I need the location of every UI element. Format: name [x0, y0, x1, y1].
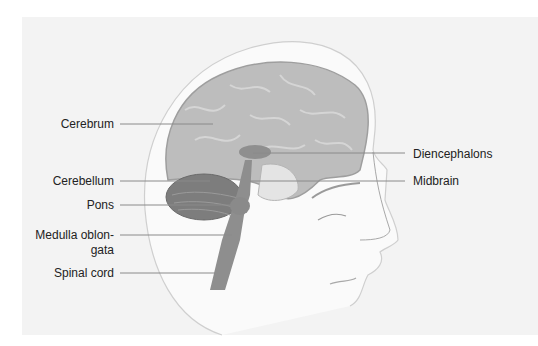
label-midbrain: Midbrain — [413, 174, 459, 188]
label-cerebellum: Cerebellum — [53, 174, 114, 188]
label-pons: Pons — [87, 198, 114, 212]
pons-shape — [230, 197, 250, 215]
label-spinal-cord: Spinal cord — [54, 266, 114, 280]
label-medulla-line1: Medulla oblon- — [35, 228, 114, 242]
label-medulla-line2: gata — [91, 243, 114, 257]
label-cerebrum: Cerebrum — [61, 117, 114, 131]
label-diencephalons: Diencephalons — [413, 147, 492, 161]
brain-illustration — [0, 0, 538, 346]
diencephalon — [239, 145, 271, 159]
